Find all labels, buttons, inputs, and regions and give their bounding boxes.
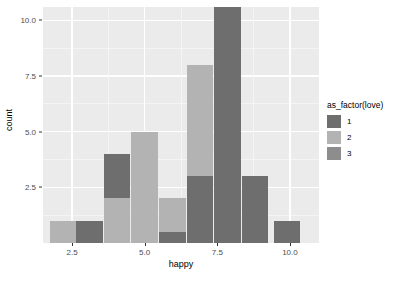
legend-key-swatch [327, 115, 341, 128]
gridline-vertical-major [289, 7, 290, 243]
bar-segment [242, 176, 269, 243]
legend-entries: 123 [327, 114, 407, 161]
legend-item: 1 [327, 114, 407, 129]
legend-item-label: 1 [347, 117, 351, 126]
y-axis-ticks: 2.55.07.510.0 [14, 0, 42, 243]
bar-segment [274, 221, 301, 243]
x-tick-label: 5.0 [139, 248, 150, 257]
x-tick-mark [145, 243, 146, 246]
bar-segment [76, 221, 103, 243]
bar-segment [50, 221, 77, 243]
bar-segment [187, 65, 214, 176]
x-tick-label: 7.5 [212, 248, 223, 257]
x-axis-title-text: happy [169, 259, 194, 269]
y-tick-mark [39, 76, 42, 77]
y-tick-label: 7.5 [25, 72, 36, 81]
y-tick-label: 5.0 [25, 127, 36, 136]
y-tick-mark [39, 187, 42, 188]
legend-key-swatch [327, 131, 341, 144]
bar-segment [214, 7, 241, 243]
legend-item-label: 2 [347, 133, 351, 142]
bar-segment [104, 198, 131, 243]
stacked-histogram-chart: count 2.55.07.510.0 2.55.07.510.0 happy … [0, 0, 410, 283]
legend-item-label: 3 [347, 149, 351, 158]
bar-segment [159, 232, 186, 243]
x-axis-ticks: 2.55.07.510.0 [43, 243, 319, 259]
y-tick-label: 2.5 [25, 183, 36, 192]
legend-key-swatch [327, 147, 341, 160]
bar-segment [187, 176, 214, 243]
x-tick-mark [290, 243, 291, 246]
y-tick-mark [39, 131, 42, 132]
x-tick-label: 2.5 [66, 248, 77, 257]
bar-segment [104, 154, 131, 199]
x-tick-mark [72, 243, 73, 246]
legend: as_factor(love) 123 [327, 100, 407, 162]
x-tick-label: 10.0 [282, 248, 298, 257]
y-axis-title-text: count [4, 109, 14, 131]
x-tick-mark [217, 243, 218, 246]
plot-panel [43, 7, 319, 243]
legend-title: as_factor(love) [327, 100, 407, 110]
y-tick-label: 10.0 [20, 16, 36, 25]
bar-segment [131, 132, 158, 243]
x-axis-title: happy [43, 259, 319, 269]
legend-item: 2 [327, 130, 407, 145]
legend-item: 3 [327, 146, 407, 161]
gridline-vertical-major [71, 7, 72, 243]
y-tick-mark [39, 20, 42, 21]
bar-segment [159, 198, 186, 231]
